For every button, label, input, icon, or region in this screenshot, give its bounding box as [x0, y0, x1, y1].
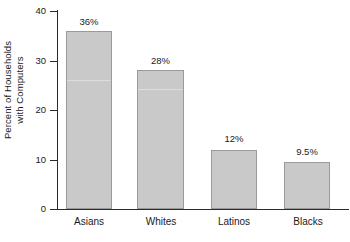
y-tick-label-0: 0 [22, 204, 46, 214]
y-tick-label-20: 20 [22, 105, 46, 115]
bar-chart-figure: Percent of Households with Computers 40 … [0, 0, 350, 242]
y-axis-title-line-2: with Computers [14, 10, 26, 170]
y-tick-mark-40 [50, 11, 57, 12]
bar-blacks [284, 162, 330, 209]
y-tick-mark-20 [50, 110, 57, 111]
x-axis-label-blacks: Blacks [279, 216, 337, 228]
plot-area [57, 11, 347, 209]
y-tick-mark-30 [50, 61, 57, 62]
y-tick-label-40: 40 [22, 6, 46, 16]
bar-whites [137, 70, 184, 209]
bar-value-whites: 28% [137, 56, 184, 66]
x-axis-label-whites: Whites [132, 216, 190, 228]
bar-asians [66, 31, 112, 209]
x-axis-label-latinos: Latinos [205, 216, 263, 228]
bar-value-blacks: 9.5% [284, 147, 330, 157]
y-axis-title-line-1: Percent of Households [2, 10, 14, 170]
bar-latinos [211, 150, 257, 209]
y-axis-title: Percent of Households with Computers [2, 10, 32, 170]
bar-value-latinos: 12% [211, 134, 257, 144]
bar-value-asians: 36% [66, 17, 112, 27]
x-axis-label-asians: Asians [60, 216, 118, 228]
y-tick-mark-0 [50, 209, 57, 210]
y-tick-mark-10 [50, 160, 57, 161]
y-tick-label-10: 10 [22, 155, 46, 165]
y-tick-label-30: 30 [22, 56, 46, 66]
